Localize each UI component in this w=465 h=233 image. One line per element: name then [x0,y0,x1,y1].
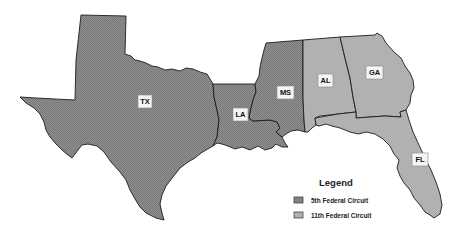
svg-text:FL: FL [415,155,425,164]
state-texas[interactable] [20,15,219,220]
label-al: AL [318,74,333,87]
circuit-map: TX LA MS AL GA FL Legend 5th Federal Cir… [0,0,465,233]
legend-swatch-5th [294,197,303,203]
svg-text:MS: MS [280,88,291,97]
legend-swatch-11th [294,212,303,218]
label-tx: TX [138,95,152,108]
label-fl: FL [412,153,428,166]
svg-text:TX: TX [140,97,150,106]
legend-label-5th: 5th Federal Circuit [311,197,369,204]
label-ms: MS [277,86,294,99]
svg-text:AL: AL [321,76,331,85]
legend: Legend 5th Federal Circuit 11th Federal … [294,177,372,219]
label-ga: GA [366,66,383,79]
label-la: LA [233,108,248,121]
legend-label-11th: 11th Federal Circuit [311,212,372,219]
legend-title: Legend [319,177,353,188]
svg-text:LA: LA [236,110,247,119]
svg-text:GA: GA [369,68,381,77]
